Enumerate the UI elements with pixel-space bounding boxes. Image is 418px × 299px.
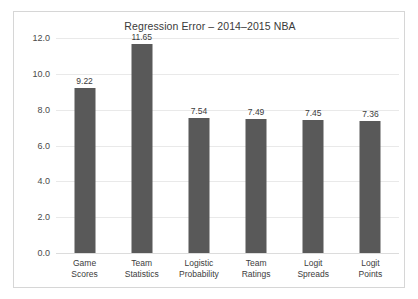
plot-area: 0.02.04.06.08.010.012.0 9.22GameScores11… [56, 38, 399, 253]
y-axis-tick-label: 6.0 [37, 141, 50, 151]
bar-value-label: 7.45 [305, 108, 322, 118]
x-axis-tick-label-line: Statistics [113, 269, 171, 280]
gridline [56, 253, 399, 254]
bar-series: 9.22GameScores11.65TeamStatistics7.54Log… [56, 38, 399, 253]
y-axis-tick-label: 4.0 [37, 176, 50, 186]
bar[interactable] [188, 118, 209, 253]
x-axis-tick-label-line: Ratings [227, 269, 285, 280]
x-axis-tick-label-line: Points [341, 269, 399, 280]
chart-figure: Regression Error – 2014–2015 NBA 0.02.04… [13, 11, 405, 288]
x-axis-tick-label: LogitPoints [341, 258, 399, 279]
bar[interactable] [74, 88, 95, 253]
bar[interactable] [303, 120, 324, 253]
x-axis-tick-label: TeamRatings [227, 258, 285, 279]
bar-value-label: 11.65 [131, 32, 152, 42]
x-axis-tick-label-line: Logistic [170, 258, 228, 269]
x-axis-tick-label-line: Probability [170, 269, 228, 280]
bar-group[interactable]: 9.22GameScores [56, 38, 113, 253]
bar-value-label: 9.22 [76, 76, 93, 86]
y-axis-tick-label: 0.0 [37, 248, 50, 258]
y-axis-tick-label: 12.0 [32, 33, 50, 43]
x-axis-tick-label: GameScores [56, 258, 114, 279]
chart-title: Regression Error – 2014–2015 NBA [14, 20, 406, 32]
bar-value-label: 7.49 [248, 107, 265, 117]
bar[interactable] [131, 44, 152, 253]
x-axis-tick-label-line: Team [227, 258, 285, 269]
x-axis-tick-label-line: Game [56, 258, 114, 269]
bar[interactable] [360, 121, 381, 253]
x-axis-tick-label-line: Logit [341, 258, 399, 269]
bar-value-label: 7.54 [191, 106, 208, 116]
bar[interactable] [246, 119, 267, 253]
x-axis-tick-label: LogitSpreads [284, 258, 342, 279]
x-axis-tick-label-line: Spreads [284, 269, 342, 280]
bar-group[interactable]: 11.65TeamStatistics [113, 38, 170, 253]
bar-group[interactable]: 7.54LogisticProbability [170, 38, 227, 253]
bar-group[interactable]: 7.45LogitSpreads [285, 38, 342, 253]
bar-group[interactable]: 7.49TeamRatings [228, 38, 285, 253]
y-axis-tick-label: 2.0 [37, 212, 50, 222]
bar-group[interactable]: 7.36LogitPoints [342, 38, 399, 253]
y-axis-tick-label: 10.0 [32, 69, 50, 79]
x-axis-tick-label-line: Logit [284, 258, 342, 269]
y-axis-tick-label: 8.0 [37, 105, 50, 115]
x-axis-tick-label-line: Team [113, 258, 171, 269]
bar-value-label: 7.36 [362, 109, 379, 119]
x-axis-tick-label: TeamStatistics [113, 258, 171, 279]
x-axis-tick-label: LogisticProbability [170, 258, 228, 279]
x-axis-tick-label-line: Scores [56, 269, 114, 280]
